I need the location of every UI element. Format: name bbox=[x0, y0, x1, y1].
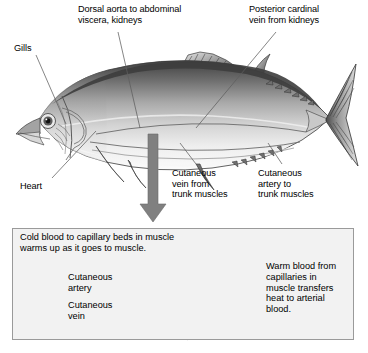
label-cutaneous-vein-trunk: Cutaneous vein from trunk muscles bbox=[172, 168, 228, 200]
label-cutaneous-artery-trunk: Cutaneous artery to trunk muscles bbox=[258, 168, 314, 200]
label-inset-warm-blood: Warm blood from capillaries in muscle tr… bbox=[266, 261, 336, 315]
label-inset-cutaneous-vein: Cutaneous vein bbox=[68, 300, 112, 322]
figure-root: Dorsal aorta to abdominal viscera, kidne… bbox=[0, 0, 368, 353]
label-posterior-cardinal-vein: Posterior cardinal vein from kidneys bbox=[249, 4, 319, 25]
label-gills: Gills bbox=[14, 43, 31, 54]
label-dorsal-aorta: Dorsal aorta to abdominal viscera, kidne… bbox=[78, 4, 181, 25]
label-inset-cutaneous-artery: Cutaneous artery bbox=[68, 272, 112, 294]
inset-caption: Cold blood to capillary beds in muscle w… bbox=[20, 232, 174, 254]
eye-highlight bbox=[46, 119, 48, 121]
label-heart: Heart bbox=[20, 181, 42, 192]
